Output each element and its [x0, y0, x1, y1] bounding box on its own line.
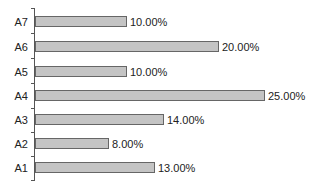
- bar: [35, 162, 155, 173]
- category-label: A6: [0, 41, 28, 53]
- value-label: 10.00%: [130, 66, 167, 78]
- value-label: 14.00%: [167, 114, 204, 126]
- axis-tick: [31, 156, 35, 157]
- bar: [35, 114, 164, 125]
- bar-row: A2 8.00%: [0, 138, 317, 150]
- bar-chart: A7 10.00% A6 20.00% A5 10.00% A4 25.00% …: [0, 0, 317, 190]
- bar: [35, 16, 127, 27]
- bar-row: A1 13.00%: [0, 162, 317, 174]
- bar-row: A5 10.00%: [0, 66, 317, 78]
- value-label: 13.00%: [158, 162, 195, 174]
- bar-row: A3 14.00%: [0, 114, 317, 126]
- axis-tick: [31, 8, 35, 9]
- axis-tick: [31, 33, 35, 34]
- category-label: A3: [0, 114, 28, 126]
- category-label: A7: [0, 16, 28, 28]
- bar: [35, 66, 127, 77]
- value-label: 8.00%: [112, 138, 143, 150]
- category-label: A1: [0, 162, 28, 174]
- axis-tick: [31, 132, 35, 133]
- category-label: A2: [0, 138, 28, 150]
- value-label: 10.00%: [130, 16, 167, 28]
- bar-row: A6 20.00%: [0, 41, 317, 53]
- axis-tick: [31, 108, 35, 109]
- axis-tick: [31, 83, 35, 84]
- bar-row: A4 25.00%: [0, 90, 317, 102]
- bar: [35, 41, 219, 52]
- axis-tick: [31, 58, 35, 59]
- bar: [35, 90, 265, 101]
- bar: [35, 138, 109, 149]
- category-label: A4: [0, 90, 28, 102]
- category-label: A5: [0, 66, 28, 78]
- value-label: 20.00%: [222, 41, 259, 53]
- value-label: 25.00%: [268, 90, 305, 102]
- axis-tick: [31, 180, 35, 181]
- bar-row: A7 10.00%: [0, 16, 317, 28]
